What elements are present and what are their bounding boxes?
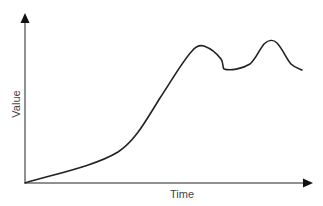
y-axis-label: Value bbox=[10, 90, 22, 117]
x-axis-arrow-icon bbox=[303, 179, 313, 188]
data-curve bbox=[25, 40, 302, 183]
line-diagram: Time Value bbox=[0, 0, 323, 206]
y-axis-arrow-icon bbox=[21, 13, 30, 23]
x-axis-label: Time bbox=[170, 188, 194, 200]
